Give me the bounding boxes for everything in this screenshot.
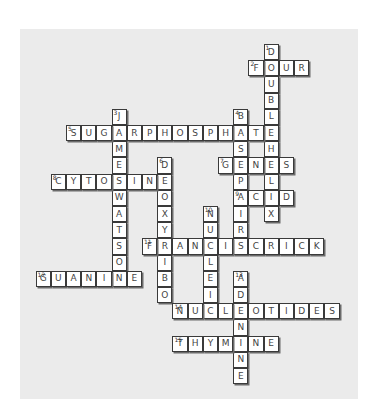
crossword-cell[interactable]: Y <box>66 174 81 190</box>
crossword-cell[interactable]: E <box>264 157 279 173</box>
crossword-cell[interactable]: A <box>66 271 81 287</box>
crossword-cell[interactable]: B <box>157 271 172 287</box>
crossword-cell[interactable]: I <box>218 238 233 254</box>
crossword-cell[interactable]: N <box>248 157 263 173</box>
crossword-cell[interactable]: P <box>142 125 157 141</box>
crossword-cell[interactable]: M <box>112 141 127 157</box>
crossword-cell[interactable]: I <box>233 336 248 352</box>
crossword-cell[interactable]: U <box>188 303 203 319</box>
crossword-cell[interactable]: T <box>112 222 127 238</box>
crossword-cell[interactable]: E <box>157 174 172 190</box>
crossword-cell[interactable]: U <box>203 222 218 238</box>
crossword-cell[interactable]: U <box>51 271 66 287</box>
crossword-cell[interactable]: K <box>309 238 324 254</box>
crossword-cell[interactable]: H <box>218 125 233 141</box>
crossword-cell[interactable]: P <box>233 174 248 190</box>
crossword-cell[interactable]: I <box>279 238 294 254</box>
crossword-cell[interactable]: 12G <box>36 271 51 287</box>
crossword-cell[interactable]: I <box>264 190 279 206</box>
crossword-cell[interactable]: E <box>309 303 324 319</box>
crossword-cell[interactable]: E <box>233 368 248 384</box>
crossword-cell[interactable]: O <box>264 60 279 76</box>
crossword-cell[interactable]: E <box>203 271 218 287</box>
crossword-cell[interactable]: X <box>264 206 279 222</box>
crossword-cell[interactable]: I <box>96 271 111 287</box>
crossword-cell[interactable]: S <box>324 303 339 319</box>
crossword-cell[interactable]: C <box>203 303 218 319</box>
crossword-cell[interactable]: B <box>264 93 279 109</box>
crossword-cell[interactable]: N <box>248 336 263 352</box>
crossword-cell[interactable]: C <box>248 190 263 206</box>
crossword-cell[interactable]: 2F <box>248 60 263 76</box>
crossword-cell[interactable]: N <box>81 271 96 287</box>
crossword-cell[interactable]: H <box>157 125 172 141</box>
crossword-cell[interactable]: 10N <box>203 206 218 222</box>
crossword-cell[interactable]: 6D <box>157 157 172 173</box>
crossword-cell[interactable]: S <box>279 157 294 173</box>
crossword-cell[interactable]: 14N <box>172 303 187 319</box>
crossword-cell[interactable]: D <box>233 287 248 303</box>
crossword-cell[interactable]: D <box>294 303 309 319</box>
crossword-cell[interactable]: E <box>127 271 142 287</box>
crossword-cell[interactable]: O <box>172 125 187 141</box>
crossword-cell[interactable]: P <box>203 125 218 141</box>
crossword-cell[interactable]: E <box>264 125 279 141</box>
crossword-cell[interactable]: T <box>264 303 279 319</box>
crossword-cell[interactable]: S <box>188 125 203 141</box>
crossword-cell[interactable]: G <box>96 125 111 141</box>
crossword-cell[interactable]: A <box>112 206 127 222</box>
crossword-cell[interactable]: U <box>279 60 294 76</box>
crossword-cell[interactable]: R <box>233 222 248 238</box>
crossword-cell[interactable]: 9A <box>233 190 248 206</box>
crossword-cell[interactable]: H <box>188 336 203 352</box>
crossword-cell[interactable]: E <box>233 303 248 319</box>
crossword-cell[interactable]: E <box>264 336 279 352</box>
crossword-cell[interactable]: M <box>218 336 233 352</box>
crossword-cell[interactable]: T <box>248 125 263 141</box>
crossword-cell[interactable]: A <box>172 238 187 254</box>
crossword-cell[interactable]: O <box>157 190 172 206</box>
crossword-cell[interactable]: I <box>127 174 142 190</box>
crossword-cell[interactable]: N <box>188 238 203 254</box>
crossword-cell[interactable]: L <box>203 255 218 271</box>
crossword-cell[interactable]: Y <box>203 336 218 352</box>
crossword-cell[interactable]: O <box>96 174 111 190</box>
crossword-cell[interactable]: O <box>248 303 263 319</box>
crossword-cell[interactable]: H <box>264 141 279 157</box>
crossword-cell[interactable]: Y <box>157 222 172 238</box>
crossword-cell[interactable]: 3J <box>112 109 127 125</box>
crossword-cell[interactable]: S <box>233 141 248 157</box>
crossword-cell[interactable]: T <box>81 174 96 190</box>
crossword-cell[interactable]: U <box>264 76 279 92</box>
crossword-cell[interactable]: 5S <box>66 125 81 141</box>
crossword-cell[interactable]: E <box>233 157 248 173</box>
crossword-cell[interactable]: 4B <box>233 109 248 125</box>
crossword-cell[interactable]: 7G <box>218 157 233 173</box>
crossword-cell[interactable]: W <box>112 190 127 206</box>
crossword-cell[interactable]: O <box>112 255 127 271</box>
crossword-cell[interactable]: R <box>294 60 309 76</box>
crossword-cell[interactable]: R <box>264 238 279 254</box>
crossword-cell[interactable]: 13A <box>233 271 248 287</box>
crossword-cell[interactable]: I <box>203 287 218 303</box>
crossword-cell[interactable]: R <box>127 125 142 141</box>
crossword-cell[interactable]: L <box>218 303 233 319</box>
crossword-cell[interactable]: C <box>294 238 309 254</box>
crossword-cell[interactable]: N <box>233 352 248 368</box>
crossword-cell[interactable]: S <box>112 174 127 190</box>
crossword-cell[interactable]: I <box>233 206 248 222</box>
crossword-cell[interactable]: E <box>112 157 127 173</box>
crossword-cell[interactable]: I <box>279 303 294 319</box>
crossword-cell[interactable]: R <box>157 238 172 254</box>
crossword-cell[interactable]: 1D <box>264 44 279 60</box>
crossword-cell[interactable]: 11F <box>142 238 157 254</box>
crossword-cell[interactable]: 15T <box>172 336 187 352</box>
crossword-cell[interactable]: S <box>112 238 127 254</box>
crossword-cell[interactable]: N <box>112 271 127 287</box>
crossword-cell[interactable]: N <box>142 174 157 190</box>
crossword-cell[interactable]: N <box>233 319 248 335</box>
crossword-cell[interactable]: C <box>248 238 263 254</box>
crossword-cell[interactable]: L <box>264 109 279 125</box>
crossword-cell[interactable]: I <box>157 255 172 271</box>
crossword-cell[interactable]: X <box>157 206 172 222</box>
